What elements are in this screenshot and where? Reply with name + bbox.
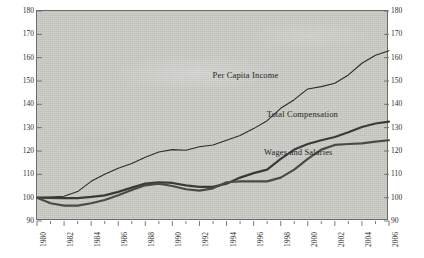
y-axis-tick-label: 90 <box>391 217 399 225</box>
y-axis-tick-label: 170 <box>23 30 34 38</box>
x-axis-tick-label: 2002 <box>338 232 346 247</box>
series-line <box>37 140 389 205</box>
plot-area: 90100110120130140150160170180 9010011012… <box>36 10 388 220</box>
y-axis-tick-label: 150 <box>391 77 402 85</box>
series-label: Per Capita Income <box>213 70 279 80</box>
y-axis-tick-label: 180 <box>23 7 34 15</box>
y-axis-tick-label: 180 <box>391 7 402 15</box>
y-axis-tick-label: 110 <box>391 170 402 178</box>
y-axis-tick-label: 130 <box>391 124 402 132</box>
y-axis-tick-label: 100 <box>23 194 34 202</box>
x-axis-tick-label: 1996 <box>257 232 265 247</box>
chart-page: 90100110120130140150160170180 9010011012… <box>0 0 424 258</box>
y-axis-tick-label: 140 <box>23 100 34 108</box>
y-axis-tick-label: 100 <box>391 194 402 202</box>
y-axis-tick-label: 110 <box>23 170 34 178</box>
x-axis-tick-label: 1990 <box>175 232 183 247</box>
x-axis-tick-label: 1992 <box>202 232 210 247</box>
series-line <box>37 122 389 199</box>
x-axis-tick-label: 1994 <box>230 232 238 247</box>
y-axis-tick-label: 120 <box>23 147 34 155</box>
series-label: Total Compensation <box>267 109 338 119</box>
y-axis-tick-label: 160 <box>23 54 34 62</box>
x-axis-tick-label: 1998 <box>284 232 292 247</box>
x-axis-tick-label: 1986 <box>121 232 129 247</box>
x-axis-tick-label: 1980 <box>40 232 48 247</box>
x-axis-tick-label: 1988 <box>148 232 156 247</box>
y-axis-tick-label: 170 <box>391 30 402 38</box>
y-axis-tick-label: 140 <box>391 100 402 108</box>
x-axis-tick-label: 2006 <box>392 232 400 247</box>
x-axis-tick-label: 2004 <box>365 232 373 247</box>
series-label: Wages and Salaries <box>264 147 333 157</box>
x-axis-tick-label: 1982 <box>67 232 75 247</box>
x-axis-tick-label: 2000 <box>311 232 319 247</box>
y-axis-tick-label: 120 <box>391 147 402 155</box>
y-axis-tick-label: 150 <box>23 77 34 85</box>
x-axis-tick-label: 1984 <box>94 232 102 247</box>
y-axis-tick-label: 160 <box>391 54 402 62</box>
y-axis-tick-label: 90 <box>27 217 35 225</box>
y-axis-tick-label: 130 <box>23 124 34 132</box>
